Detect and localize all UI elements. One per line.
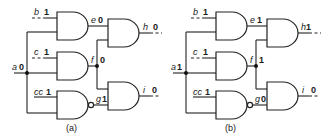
nand-gate-g [57, 91, 88, 119]
and-gate-e [57, 12, 88, 40]
signal-b-value: 1 [44, 7, 49, 17]
signal-c-label: c [193, 47, 198, 57]
panel-caption: (a) [66, 123, 77, 133]
signal-e-label: e [250, 15, 255, 25]
signal-a-value: 1 [177, 62, 182, 72]
signal-e-label: e [91, 15, 96, 25]
signal-f-label: f [250, 55, 254, 65]
signal-b-label: b [34, 7, 39, 17]
panel-caption: (b) [225, 123, 236, 133]
nand-bubble [247, 102, 252, 107]
signal-a-label: a [171, 62, 176, 72]
signal-cc-label: cc [193, 87, 203, 97]
nand-bubble [88, 102, 93, 107]
signal-f-label: f [91, 55, 95, 65]
nand-gate-g [216, 91, 247, 119]
signal-i-label: i [302, 85, 305, 95]
signal-g-label: g [96, 94, 101, 104]
circuit-panel-b: b 1 c 1 cc 1 a 1 e 1 f 1 g 0 h 1 i 0 (b) [171, 7, 321, 133]
signal-e-value: 1 [257, 15, 262, 25]
signal-i-label: i [143, 85, 146, 95]
signal-c-value: 1 [203, 47, 208, 57]
junction-dot [95, 64, 99, 68]
and-gate-f [216, 52, 247, 80]
signal-h-value: 0 [153, 22, 158, 32]
signal-h-value: 1 [306, 22, 311, 32]
signal-b-label: b [193, 7, 198, 17]
signal-c-label: c [34, 47, 39, 57]
signal-a-value: 0 [19, 62, 24, 72]
junction-dot [254, 64, 258, 68]
and-gate-f [57, 52, 88, 80]
circuit-panel-a: b 1 c 1 cc 1 a 0 e 0 f 0 g 1 h 0 i 0 (a) [12, 7, 162, 133]
signal-i-value: 0 [152, 85, 157, 95]
signal-b-value: 1 [203, 7, 208, 17]
signal-f-value: 1 [259, 55, 264, 65]
signal-cc-label: cc [34, 87, 44, 97]
and-gate-i [267, 82, 298, 110]
signal-e-value: 0 [98, 15, 103, 25]
and-gate-h [267, 19, 298, 47]
junction-dot [184, 71, 188, 75]
signal-cc-value: 1 [46, 87, 51, 97]
signal-g-label: g [255, 94, 260, 104]
and-gate-i [108, 82, 139, 110]
circuit-figure: b 1 c 1 cc 1 a 0 e 0 f 0 g 1 h 0 i 0 (a) [0, 0, 328, 139]
signal-h-label: h [143, 22, 148, 32]
signal-f-value: 0 [100, 55, 105, 65]
signal-c-value: 1 [44, 47, 49, 57]
junction-dot [25, 71, 29, 75]
signal-cc-value: 1 [205, 87, 210, 97]
signal-a-label: a [12, 62, 17, 72]
signal-g-value: 1 [102, 94, 107, 104]
signal-g-value: 0 [261, 94, 266, 104]
and-gate-e [216, 12, 247, 40]
signal-i-value: 0 [311, 85, 316, 95]
and-gate-h [108, 19, 139, 47]
